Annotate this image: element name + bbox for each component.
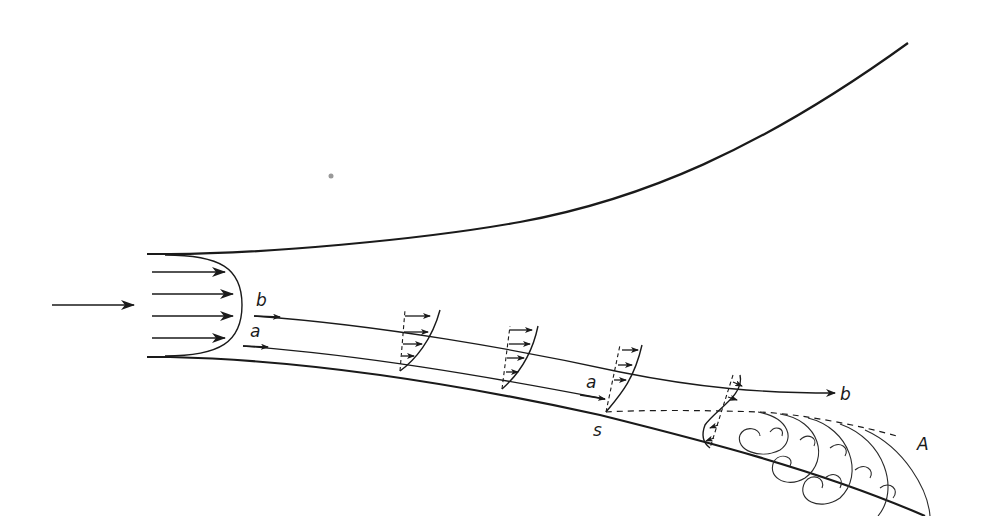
separation-streamline bbox=[606, 411, 900, 438]
label-separated-region: A bbox=[916, 434, 929, 454]
label-a-end: a bbox=[586, 372, 596, 392]
streamline-a-end-arrow bbox=[580, 395, 605, 399]
velocity-profile-1 bbox=[400, 310, 440, 371]
streamline-b bbox=[254, 316, 835, 393]
label-b-start: b bbox=[256, 290, 267, 310]
streamline-a bbox=[243, 346, 605, 399]
recirculation-eddies bbox=[739, 412, 930, 516]
velocity-profile-3 bbox=[606, 345, 642, 412]
velocity-profile-2 bbox=[502, 326, 538, 389]
label-separation-point: s bbox=[593, 420, 602, 440]
label-a-start: a bbox=[250, 321, 260, 341]
stray-dot bbox=[329, 174, 334, 179]
label-b-end: b bbox=[840, 384, 851, 404]
diffuser-separation-diagram: b a a b s A bbox=[0, 0, 989, 516]
inlet-velocity-profile bbox=[152, 255, 242, 356]
upper-wall bbox=[147, 43, 908, 254]
